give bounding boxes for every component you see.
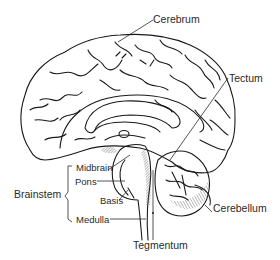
label-cerebellum: Cerebellum	[213, 203, 267, 214]
brain-illustration	[0, 0, 280, 260]
cerebrum-outline	[21, 34, 235, 172]
label-medulla: Medulla	[76, 215, 109, 225]
label-brainstem: Brainstem	[14, 189, 61, 200]
cingulate-outline	[60, 95, 204, 148]
label-tegmentum: Tegmentum	[133, 240, 188, 251]
label-tectum: Tectum	[229, 73, 263, 84]
brainstem-bracket	[65, 166, 72, 222]
label-pons: Pons	[75, 177, 97, 187]
label-midbrain: Midbrain	[76, 163, 112, 173]
label-basis: Basis	[100, 196, 123, 206]
leader-tectum	[170, 78, 228, 160]
corpus-callosum	[85, 101, 180, 133]
brain-diagram: Cerebrum Tectum Midbrain Pons Basis Brai…	[0, 0, 280, 260]
label-cerebrum: Cerebrum	[153, 14, 200, 25]
leader-cerebellum	[205, 205, 212, 212]
leader-cerebrum	[118, 20, 153, 42]
